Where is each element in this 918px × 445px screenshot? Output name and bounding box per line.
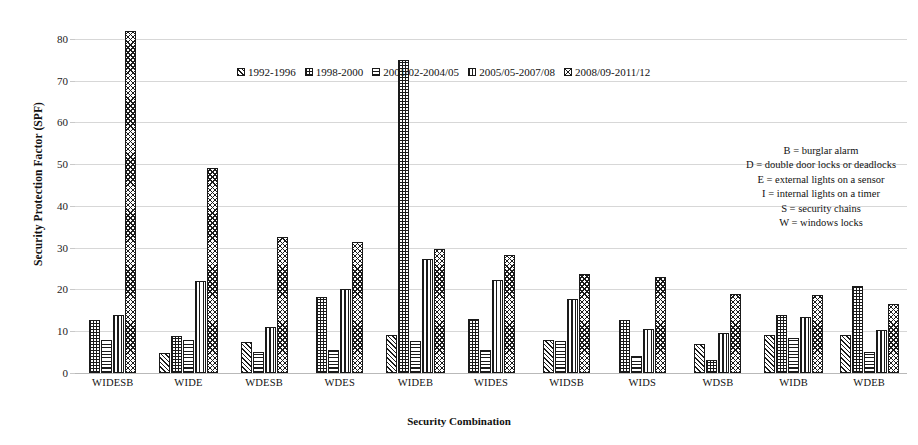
- bar: [567, 299, 578, 373]
- bar: [888, 304, 899, 373]
- bar: [265, 327, 276, 373]
- bar: [207, 168, 218, 373]
- bar: [171, 336, 182, 373]
- key-line: D = double door locks or deadlocks: [746, 158, 896, 172]
- bar: [480, 350, 491, 373]
- bar: [125, 31, 136, 373]
- legend-item[interactable]: 2005/05-2007/08: [468, 66, 555, 78]
- bar: [852, 286, 863, 373]
- bar: [468, 319, 479, 373]
- bar: [101, 340, 112, 373]
- bar: [183, 340, 194, 373]
- legend-label: 2008/09-2011/12: [575, 66, 650, 78]
- bar-group: [680, 18, 756, 373]
- bar-group: [75, 18, 151, 373]
- bar: [619, 320, 630, 373]
- bar: [504, 255, 515, 373]
- key-line: E = external lights on a sensor: [746, 173, 896, 187]
- bar: [195, 281, 206, 373]
- y-axis-tick-label: 40: [57, 200, 68, 212]
- bar: [555, 341, 566, 373]
- x-axis-tick-labels: WIDESBWIDEWDESBWDESWIDEBWIDESWIDSBWIDSWD…: [75, 377, 907, 388]
- legend-label: 1992-1996: [248, 66, 296, 78]
- bar: [89, 320, 100, 373]
- bar: [840, 335, 851, 373]
- gridline: [75, 373, 907, 374]
- y-axis-tick-label: 20: [57, 283, 68, 295]
- bar: [788, 338, 799, 374]
- bar: [730, 294, 741, 373]
- x-axis-tick-label: WIDSB: [529, 377, 605, 388]
- bar: [422, 259, 433, 373]
- y-axis-tick-label: 60: [57, 116, 68, 128]
- legend-item[interactable]: 1992-1996: [237, 66, 296, 78]
- y-axis-tick-label: 50: [57, 158, 68, 170]
- legend-label: 2001/02-2004/05: [383, 66, 459, 78]
- bar: [316, 297, 327, 373]
- bar: [643, 329, 654, 373]
- bar: [812, 295, 823, 373]
- y-axis-tick-label: 30: [57, 242, 68, 254]
- y-axis-tick: [70, 373, 75, 374]
- legend-item[interactable]: 2001/02-2004/05: [372, 66, 459, 78]
- bar: [694, 344, 705, 373]
- bar: [864, 352, 875, 373]
- x-axis-tick-label: WIDEB: [378, 377, 454, 388]
- bar: [655, 277, 666, 373]
- bar: [579, 274, 590, 373]
- x-axis-title: Security Combination: [0, 415, 918, 427]
- x-axis-tick-label: WIDES: [453, 377, 529, 388]
- bar: [398, 60, 409, 373]
- legend-swatch-icon: [237, 68, 245, 76]
- bar: [706, 360, 717, 373]
- bar: [328, 350, 339, 373]
- bar: [113, 315, 124, 373]
- key-line: I = internal lights on a timer: [746, 187, 896, 201]
- bar-chart: Security Protection Factor (SPF) 0102030…: [0, 0, 918, 445]
- x-axis-tick-label: WDES: [302, 377, 378, 388]
- x-axis-tick-label: WDEB: [831, 377, 907, 388]
- legend-item[interactable]: 1998-2000: [305, 66, 364, 78]
- x-axis-tick-label: WDSB: [680, 377, 756, 388]
- legend-item[interactable]: 2008/09-2011/12: [564, 66, 650, 78]
- bar-group: [151, 18, 227, 373]
- legend-swatch-icon: [372, 68, 380, 76]
- x-axis-tick-label: WIDE: [151, 377, 227, 388]
- x-axis-tick-label: WDESB: [226, 377, 302, 388]
- bar: [800, 317, 811, 373]
- y-axis-tick-label: 0: [63, 367, 69, 379]
- bar: [492, 280, 503, 373]
- bar: [386, 335, 397, 373]
- bar: [631, 356, 642, 373]
- bar: [277, 237, 288, 373]
- bar: [718, 333, 729, 373]
- y-axis-tick-label: 70: [57, 75, 68, 87]
- legend-swatch-icon: [305, 68, 313, 76]
- x-axis-tick-label: WIDESB: [75, 377, 151, 388]
- key-line: B = burglar alarm: [746, 144, 896, 158]
- bar: [352, 242, 363, 373]
- key-line: W = windows locks: [746, 216, 896, 230]
- bar: [159, 353, 170, 373]
- legend-label: 2005/05-2007/08: [479, 66, 555, 78]
- key-line: S = security chains: [746, 202, 896, 216]
- y-axis-tick-label: 80: [57, 33, 68, 45]
- legend: 1992-19961998-20002001/02-2004/052005/05…: [237, 66, 650, 78]
- bar: [340, 289, 351, 373]
- legend-swatch-icon: [468, 68, 476, 76]
- bar: [253, 352, 264, 373]
- legend-label: 1998-2000: [316, 66, 364, 78]
- bar: [410, 341, 421, 373]
- abbreviation-key: B = burglar alarmD = double door locks o…: [746, 144, 896, 230]
- legend-swatch-icon: [564, 68, 572, 76]
- y-axis-title: Security Protection Factor (SPF): [32, 54, 44, 314]
- bar: [764, 335, 775, 373]
- x-axis-tick-label: WIDB: [756, 377, 832, 388]
- bar: [776, 315, 787, 373]
- bar: [876, 330, 887, 373]
- bar: [434, 249, 445, 373]
- bar: [241, 342, 252, 373]
- bar: [543, 340, 554, 373]
- y-axis-tick-label: 10: [57, 325, 68, 337]
- x-axis-tick-label: WIDS: [604, 377, 680, 388]
